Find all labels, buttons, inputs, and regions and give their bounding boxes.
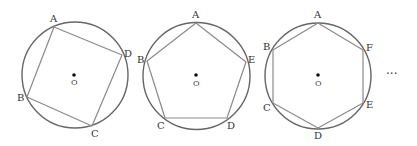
vertex-label-f: F [366,42,373,53]
vertex-label-c: C [91,128,99,139]
figure-pentagon: O A E D C B [137,9,255,131]
vertex-label-c: C [157,120,165,131]
vertex-label-b: B [263,41,270,52]
center-label: O [315,79,322,88]
vertex-label-d: D [314,130,322,141]
center-dot [194,73,198,77]
vertex-label-a: A [49,13,58,24]
inscribed-polygons-diagram: O A D C B O A E D C B O A F E D C B ··· [0,0,417,146]
figure-hexagon: O A F E D C B [263,9,373,141]
center-label: O [193,79,200,88]
continuation-ellipsis: ··· [386,67,397,81]
inscribed-pentagon [147,23,246,118]
vertex-label-b: B [137,54,144,65]
vertex-label-e: E [366,99,373,110]
figure-square: O A D C B [17,13,132,139]
vertex-label-a: A [313,9,322,20]
vertex-label-d: D [124,48,132,59]
center-label: O [71,78,78,87]
vertex-label-d: D [227,120,235,131]
center-dot [316,73,320,77]
vertex-label-b: B [17,92,24,103]
center-dot [72,73,76,77]
vertex-label-e: E [248,54,255,65]
vertex-label-a: A [191,9,200,20]
vertex-label-c: C [263,102,271,113]
